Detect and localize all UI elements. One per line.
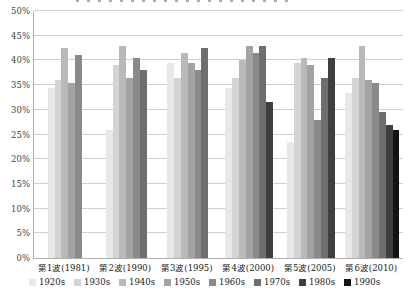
legend-swatch-icon bbox=[29, 279, 36, 286]
legend-entry-1930s: 1930s bbox=[74, 277, 110, 287]
bar-1960s bbox=[372, 83, 379, 258]
bar-1950s bbox=[246, 46, 253, 258]
bar-1940s bbox=[239, 60, 246, 258]
bar-1920s bbox=[287, 142, 294, 258]
legend-swatch-icon bbox=[209, 279, 216, 286]
legend-label: 1980s bbox=[309, 277, 335, 287]
y-tick-label: 30% bbox=[0, 105, 30, 115]
bar-group-1 bbox=[34, 11, 96, 258]
bar-1940s bbox=[301, 58, 308, 258]
legend-entry-1920s: 1920s bbox=[29, 277, 65, 287]
bar-1950s bbox=[365, 80, 372, 258]
legend-label: 1990s bbox=[354, 277, 380, 287]
legend-entry-1960s: 1960s bbox=[209, 277, 245, 287]
y-tick-label: 15% bbox=[0, 179, 30, 189]
legend-label: 1970s bbox=[264, 277, 290, 287]
bar-1920s bbox=[48, 88, 55, 258]
bar-1970s bbox=[259, 46, 266, 258]
bar-group-4 bbox=[219, 11, 281, 258]
clipped-title-artifact bbox=[76, 0, 292, 2]
legend-label: 1930s bbox=[84, 277, 110, 287]
bar-1950s bbox=[188, 63, 195, 258]
bar-1970s bbox=[201, 48, 208, 258]
bar-1990s bbox=[393, 130, 400, 258]
bar-1920s bbox=[225, 88, 232, 258]
bar-1980s bbox=[266, 102, 273, 258]
bar-1940s bbox=[61, 48, 68, 258]
bar-1930s bbox=[294, 63, 301, 258]
bar-1950s bbox=[307, 65, 314, 258]
bar-1980s bbox=[328, 58, 335, 258]
legend-swatch-icon bbox=[254, 279, 261, 286]
legend-label: 1940s bbox=[129, 277, 155, 287]
y-tick-label: 0% bbox=[0, 253, 30, 263]
x-category-label: 第6波(2010) bbox=[341, 261, 403, 273]
bar-1930s bbox=[55, 80, 62, 258]
y-tick-label: 10% bbox=[0, 204, 30, 214]
bar-1940s bbox=[119, 46, 126, 258]
bar-1920s bbox=[167, 63, 174, 258]
legend-swatch-icon bbox=[299, 279, 306, 286]
legend-entry-1980s: 1980s bbox=[299, 277, 335, 287]
bar-1970s bbox=[140, 70, 147, 258]
legend-entry-1950s: 1950s bbox=[164, 277, 200, 287]
x-category-label: 第3波(1995) bbox=[156, 261, 218, 273]
x-category-label: 第4波(2000) bbox=[218, 261, 280, 273]
legend-entry-1990s: 1990s bbox=[344, 277, 380, 287]
legend-label: 1920s bbox=[39, 277, 65, 287]
legend: 1920s1930s1940s1950s1960s1970s1980s1990s bbox=[0, 277, 409, 287]
x-category-label: 第1波(1981) bbox=[33, 261, 95, 273]
bar-1920s bbox=[106, 130, 113, 258]
y-tick-label: 5% bbox=[0, 228, 30, 238]
y-tick-label: 50% bbox=[0, 6, 30, 16]
legend-swatch-icon bbox=[74, 279, 81, 286]
bar-1960s bbox=[133, 58, 140, 258]
legend-entry-1970s: 1970s bbox=[254, 277, 290, 287]
bar-1960s bbox=[314, 120, 321, 258]
legend-swatch-icon bbox=[164, 279, 171, 286]
bar-1940s bbox=[181, 53, 188, 258]
bar-group-5 bbox=[280, 11, 342, 258]
bar-1970s bbox=[379, 112, 386, 258]
y-tick-label: 40% bbox=[0, 55, 30, 65]
bar-1950s bbox=[126, 78, 133, 258]
bar-chart: 0%5%10%15%20%25%30%35%40%45%50% 第1波(1981… bbox=[0, 0, 409, 297]
bar-1960s bbox=[75, 55, 82, 258]
bar-1940s bbox=[359, 46, 366, 258]
bar-1980s bbox=[386, 125, 393, 258]
bar-1920s bbox=[345, 93, 352, 258]
bar-group-2 bbox=[96, 11, 158, 258]
bar-1930s bbox=[232, 78, 239, 258]
legend-swatch-icon bbox=[119, 279, 126, 286]
bar-1930s bbox=[113, 65, 120, 258]
bar-group-6 bbox=[342, 11, 404, 258]
bar-1960s bbox=[195, 70, 202, 258]
legend-entry-1940s: 1940s bbox=[119, 277, 155, 287]
bar-group-3 bbox=[157, 11, 219, 258]
legend-swatch-icon bbox=[344, 279, 351, 286]
y-tick-label: 25% bbox=[0, 130, 30, 140]
bar-1930s bbox=[174, 78, 181, 258]
x-axis-category-labels: 第1波(1981)第2波(1990)第3波(1995)第4波(2000)第5波(… bbox=[33, 261, 402, 273]
x-category-label: 第5波(2005) bbox=[279, 261, 341, 273]
bar-groups bbox=[34, 11, 403, 258]
legend-label: 1950s bbox=[174, 277, 200, 287]
y-tick-label: 45% bbox=[0, 31, 30, 41]
plot-area bbox=[33, 11, 403, 259]
bar-1970s bbox=[321, 78, 328, 258]
y-tick-label: 20% bbox=[0, 154, 30, 164]
x-category-label: 第2波(1990) bbox=[95, 261, 157, 273]
bar-1960s bbox=[253, 53, 260, 258]
y-tick-label: 35% bbox=[0, 80, 30, 90]
bar-1950s bbox=[68, 83, 75, 258]
legend-label: 1960s bbox=[219, 277, 245, 287]
bar-1930s bbox=[352, 78, 359, 258]
